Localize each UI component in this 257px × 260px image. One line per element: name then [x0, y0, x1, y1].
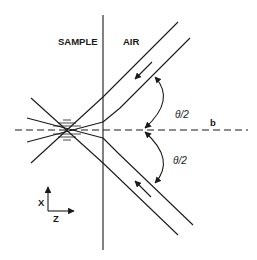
sample-label: SAMPLE [58, 36, 98, 47]
upper-angle-label: θ/2 [175, 109, 189, 120]
lower-beam [27, 98, 193, 235]
air-label: AIR [123, 36, 140, 47]
lower-angle-arc [145, 132, 163, 183]
upper-beam [27, 22, 190, 163]
x-axis-label: X [38, 197, 45, 208]
coordinate-axes: X Z [38, 187, 74, 224]
axis-b-label: b [210, 117, 216, 128]
beam-crossing-diagram: SAMPLE AIR θ/2 θ/2 b X Z [0, 0, 257, 260]
lower-angle-label: θ/2 [173, 155, 187, 166]
upper-angle-arc [145, 77, 163, 128]
upper-beam-direction-arrow [135, 62, 152, 79]
lower-beam-direction-arrow [135, 181, 151, 197]
z-axis-label: Z [53, 213, 59, 224]
